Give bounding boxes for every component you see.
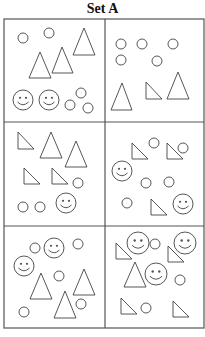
triangle-icon bbox=[146, 82, 162, 99]
circle-icon bbox=[116, 55, 126, 65]
circle-icon bbox=[76, 299, 86, 309]
circle-icon bbox=[65, 100, 75, 110]
circle-icon bbox=[137, 39, 147, 49]
triangle-icon bbox=[52, 47, 73, 73]
triangle-icon bbox=[121, 298, 137, 314]
panel-3 bbox=[18, 132, 87, 213]
triangle-icon bbox=[116, 243, 132, 259]
panel-2 bbox=[111, 39, 189, 110]
triangle-icon bbox=[124, 262, 146, 287]
circle-icon bbox=[178, 143, 188, 153]
smiley-face-icon bbox=[145, 263, 167, 285]
circle-icon bbox=[18, 33, 28, 43]
circle-icon bbox=[149, 138, 159, 148]
circle-icon bbox=[116, 39, 126, 49]
triangle-icon bbox=[111, 83, 132, 110]
triangle-icon bbox=[24, 168, 40, 184]
circle-icon bbox=[54, 271, 64, 281]
triangle-icon bbox=[168, 246, 184, 262]
triangle-icon bbox=[40, 132, 62, 158]
smiley-face-icon bbox=[127, 232, 149, 254]
smiley-face-icon bbox=[44, 238, 64, 258]
circle-icon bbox=[30, 243, 40, 253]
smiley-face-icon bbox=[13, 90, 33, 110]
triangle-icon bbox=[18, 132, 34, 149]
circle-icon bbox=[175, 275, 185, 285]
triangle-icon bbox=[132, 143, 148, 159]
circle-icon bbox=[168, 39, 178, 49]
circle-icon bbox=[19, 307, 29, 317]
smiley-face-icon bbox=[56, 193, 76, 213]
triangle-icon bbox=[73, 269, 95, 295]
circle-icon bbox=[141, 303, 151, 313]
shape-set-diagram bbox=[0, 0, 205, 337]
circle-icon bbox=[122, 198, 132, 208]
panel-5 bbox=[14, 238, 95, 318]
circle-icon bbox=[141, 178, 151, 188]
circle-icon bbox=[73, 239, 83, 249]
circle-icon bbox=[35, 202, 45, 212]
triangle-icon bbox=[52, 168, 68, 184]
circle-icon bbox=[76, 88, 86, 98]
circle-icon bbox=[73, 178, 83, 188]
panel-1 bbox=[13, 28, 95, 113]
panel-6 bbox=[116, 232, 196, 317]
smiley-face-icon bbox=[112, 161, 132, 181]
circle-icon bbox=[150, 239, 160, 249]
smiley-face-icon bbox=[14, 256, 34, 276]
triangle-icon bbox=[151, 199, 167, 215]
circle-icon bbox=[18, 202, 28, 212]
triangle-icon bbox=[167, 72, 189, 99]
triangle-icon bbox=[167, 143, 183, 159]
circle-icon bbox=[152, 56, 162, 66]
smiley-face-icon bbox=[39, 90, 59, 110]
circle-icon bbox=[164, 177, 174, 187]
triangle-icon bbox=[173, 301, 189, 317]
triangle-icon bbox=[29, 52, 51, 78]
smiley-face-icon bbox=[173, 194, 193, 214]
triangle-icon bbox=[65, 141, 87, 167]
panel-4 bbox=[112, 138, 193, 215]
triangle-icon bbox=[30, 273, 52, 299]
smiley-face-icon bbox=[174, 232, 196, 254]
triangle-icon bbox=[73, 28, 95, 55]
circle-icon bbox=[44, 28, 54, 38]
circle-icon bbox=[83, 103, 93, 113]
